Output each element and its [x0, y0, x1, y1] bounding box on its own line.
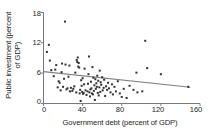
scatter-point: [61, 63, 63, 65]
scatter-point: [106, 89, 108, 91]
scatter-point: [65, 64, 67, 66]
scatter-point: [95, 82, 97, 84]
scatter-point: [100, 81, 102, 83]
scatter-point: [101, 76, 103, 78]
scatter-point: [69, 90, 71, 92]
scatter-point: [96, 86, 98, 88]
scatter-point: [54, 69, 56, 71]
scatter-point: [146, 67, 148, 69]
scatter-point: [97, 92, 99, 94]
scatter-point: [80, 100, 82, 102]
scatter-point: [83, 92, 85, 94]
scatter-point: [61, 71, 63, 73]
scatter-point: [107, 82, 109, 84]
scatter-point: [89, 95, 91, 97]
scatter-point: [84, 68, 86, 70]
scatter-point: [141, 90, 143, 92]
trend-line: [44, 72, 191, 88]
scatter-point: [187, 86, 189, 88]
scatter-point: [90, 81, 92, 83]
scatter-point: [75, 91, 77, 93]
scatter-point: [53, 75, 55, 77]
scatter-point: [108, 87, 110, 89]
scatter-point: [88, 91, 90, 93]
scatter-point: [55, 64, 57, 66]
scatter-point: [88, 55, 90, 57]
scatter-point: [93, 84, 95, 86]
scatter-point: [79, 89, 81, 91]
scatter-point: [100, 84, 102, 86]
scatter-point: [99, 91, 101, 93]
scatter-point: [82, 77, 84, 79]
scatter-point: [49, 60, 51, 62]
scatter-point: [117, 80, 119, 82]
chart-figure: Public investment (percent of GDP) 18 12…: [0, 0, 216, 137]
scatter-point: [98, 94, 100, 96]
scatter-point: [71, 90, 73, 92]
scatter-point: [95, 88, 97, 90]
scatter-point: [121, 96, 123, 98]
scatter-point: [67, 76, 69, 78]
scatter-point: [87, 83, 89, 85]
plot-area: [0, 0, 216, 137]
scatter-point: [83, 83, 85, 85]
scatter-point: [81, 85, 83, 87]
scatter-point: [70, 87, 72, 89]
scatter-point: [85, 89, 87, 91]
scatter-point: [57, 86, 59, 88]
scatter-point: [94, 99, 96, 101]
scatter-point: [76, 59, 78, 61]
scatter-point: [60, 89, 62, 91]
scatter-point: [74, 72, 76, 74]
scatter-point: [123, 88, 125, 90]
scatter-point: [135, 72, 137, 74]
scatter-point: [136, 91, 138, 93]
scatter-point: [72, 88, 74, 90]
scatter-point: [46, 51, 48, 53]
scatter-point: [48, 44, 50, 46]
scatter-point: [50, 69, 52, 71]
scatter-point: [97, 80, 99, 82]
scatter-point: [98, 86, 100, 88]
scatter-point: [92, 77, 94, 79]
scatter-point: [110, 91, 112, 93]
scatter-point: [111, 83, 113, 85]
scatter-point: [113, 86, 115, 88]
scatter-point: [126, 97, 128, 99]
scatter-point: [78, 62, 80, 64]
scatter-point: [87, 73, 89, 75]
scatter-point: [102, 89, 104, 91]
scatter-point: [73, 85, 75, 87]
scatter-point: [103, 87, 105, 89]
scatter-point: [87, 90, 89, 92]
scatter-point: [62, 86, 64, 88]
scatter-point: [86, 94, 88, 96]
scatter-point: [90, 87, 92, 89]
scatter-point: [78, 67, 80, 69]
scatter-point: [112, 93, 114, 95]
scatter-point: [132, 89, 134, 91]
scatter-point: [99, 70, 101, 72]
scatter-point: [77, 56, 79, 58]
scatter-point: [103, 79, 105, 81]
scatter-point: [144, 40, 146, 42]
scatter-points: [46, 21, 189, 102]
scatter-point: [79, 92, 81, 94]
scatter-plot-svg: [0, 0, 216, 137]
scatter-point: [59, 82, 61, 84]
scatter-point: [160, 73, 162, 75]
scatter-point: [63, 78, 65, 80]
scatter-point: [104, 95, 106, 97]
scatter-point: [66, 87, 68, 89]
scatter-point: [105, 85, 107, 87]
scatter-point: [96, 75, 98, 77]
scatter-point: [80, 79, 82, 81]
scatter-point: [92, 93, 94, 95]
scatter-point: [64, 21, 66, 23]
scatter-point: [129, 85, 131, 87]
scatter-point: [68, 65, 70, 67]
scatter-point: [119, 92, 121, 94]
scatter-point: [93, 90, 95, 92]
scatter-point: [94, 78, 96, 80]
scatter-point: [91, 66, 93, 68]
